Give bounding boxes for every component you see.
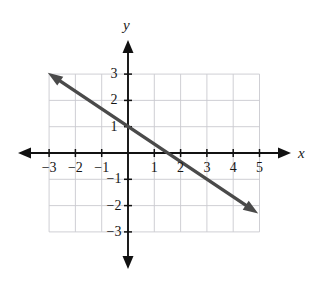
y-tick-label: −3 bbox=[107, 225, 122, 239]
x-tick-label: 3 bbox=[203, 161, 210, 175]
line-arrowhead-start bbox=[48, 73, 63, 86]
y-tick-label: −2 bbox=[107, 199, 122, 213]
y-axis-arrow-down bbox=[123, 256, 134, 269]
x-tick-label: 5 bbox=[256, 161, 263, 175]
y-tick-label: −1 bbox=[107, 172, 122, 186]
x-tick-label: 2 bbox=[177, 161, 184, 175]
x-tick-label: 4 bbox=[230, 161, 237, 175]
y-tick-label: 1 bbox=[111, 120, 118, 134]
line-arrowhead-end bbox=[243, 201, 258, 214]
graph-canvas bbox=[0, 0, 329, 281]
x-axis-label: x bbox=[298, 146, 305, 161]
y-axis-label: y bbox=[123, 18, 130, 33]
x-axis-arrow-right bbox=[278, 148, 291, 159]
x-tick-label: −3 bbox=[42, 161, 57, 175]
x-axis-arrow-left bbox=[18, 148, 31, 159]
y-tick-label: 2 bbox=[111, 93, 118, 107]
y-tick-label: 3 bbox=[111, 67, 118, 81]
x-tick-label: 1 bbox=[151, 161, 158, 175]
x-tick-label: −2 bbox=[68, 161, 83, 175]
line-segment bbox=[57, 79, 249, 207]
coordinate-plane-figure: x y −3−2−112345 321−1−2−3 bbox=[0, 0, 329, 281]
line-graph-series bbox=[48, 73, 258, 214]
y-axis-arrow-up bbox=[123, 40, 134, 53]
